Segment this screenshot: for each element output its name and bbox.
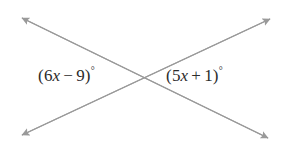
left-operator: − bbox=[60, 66, 76, 85]
right-operator: + bbox=[188, 66, 204, 85]
right-constant: 1 bbox=[204, 66, 213, 85]
angle-label-left: (6x−9)° bbox=[38, 67, 95, 84]
left-degree-symbol: ° bbox=[91, 65, 95, 76]
angle-label-right: (5x+1)° bbox=[166, 67, 223, 84]
right-degree-symbol: ° bbox=[219, 65, 223, 76]
left-constant: 9 bbox=[76, 66, 85, 85]
angle-diagram-figure: (6x−9)° (5x+1)° bbox=[0, 0, 286, 148]
right-coefficient: 5 bbox=[172, 66, 181, 85]
left-coefficient: 6 bbox=[44, 66, 53, 85]
